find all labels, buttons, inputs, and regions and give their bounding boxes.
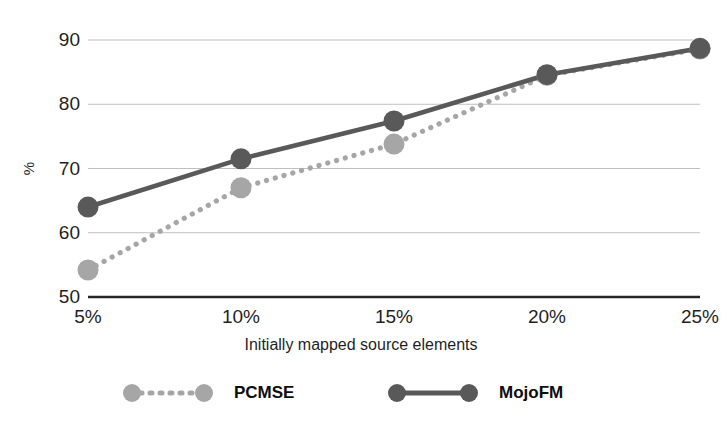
data-point-mojofm-10% xyxy=(231,148,252,169)
legend-label-mojofm: MojoFM xyxy=(499,383,563,403)
series-line-pcmse xyxy=(88,49,700,270)
y-tick-label: 50 xyxy=(40,287,80,306)
y-tick-label: 80 xyxy=(40,94,80,113)
chart-container: 5060708090 5%10%15%20%25% % Initially ma… xyxy=(0,0,722,429)
data-point-pcmse-5% xyxy=(78,260,99,281)
y-axis-tick-labels: 5060708090 xyxy=(28,0,80,429)
legend-swatch-pcmse xyxy=(120,381,216,405)
data-point-pcmse-10% xyxy=(231,177,252,198)
series-markers xyxy=(78,38,711,281)
legend-label-pcmse: PCMSE xyxy=(234,383,294,403)
x-tick-label: 15% xyxy=(375,307,413,326)
data-point-mojofm-5% xyxy=(78,197,99,218)
x-tick-label: 20% xyxy=(528,307,566,326)
data-point-mojofm-20% xyxy=(537,64,558,85)
legend-item-mojofm[interactable]: MojoFM xyxy=(385,376,563,410)
x-tick-label: 10% xyxy=(222,307,260,326)
plot-area xyxy=(0,0,722,429)
y-tick-label: 70 xyxy=(40,159,80,178)
y-tick-label: 90 xyxy=(40,30,80,49)
data-point-mojofm-25% xyxy=(690,38,711,59)
legend-item-pcmse[interactable]: PCMSE xyxy=(120,376,294,410)
x-tick-label: 5% xyxy=(74,307,101,326)
data-point-pcmse-15% xyxy=(384,134,405,155)
x-axis-title: Initially mapped source elements xyxy=(0,336,722,354)
x-tick-label: 25% xyxy=(681,307,719,326)
series-lines xyxy=(88,48,700,270)
y-tick-label: 60 xyxy=(40,223,80,242)
y-axis-title: % xyxy=(20,162,37,175)
chart-legend: PCMSE MojoFM xyxy=(0,376,722,416)
legend-swatch-mojofm xyxy=(385,381,481,405)
data-point-mojofm-15% xyxy=(384,110,405,131)
